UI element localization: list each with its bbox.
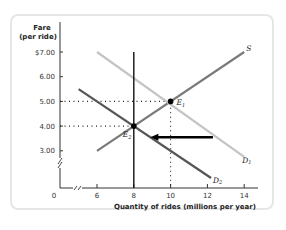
label-e1: E1 bbox=[176, 98, 186, 108]
label-d1: D1 bbox=[241, 156, 251, 166]
y-axis-title-line2: (per ride) bbox=[19, 33, 57, 41]
label-e2: E2 bbox=[122, 130, 132, 140]
x-tick-label: 6 bbox=[95, 192, 100, 200]
shift-arrow bbox=[150, 134, 213, 141]
x-tick-label: 14 bbox=[240, 192, 249, 200]
curve-d2 bbox=[79, 89, 211, 178]
point-e2 bbox=[131, 123, 137, 129]
y-tick-label: 6.00 bbox=[39, 73, 55, 81]
curves bbox=[79, 52, 245, 188]
y-axis-break-icon bbox=[58, 158, 62, 168]
x-axis-break-icon bbox=[74, 186, 81, 190]
point-e1 bbox=[168, 99, 174, 105]
label-s: S bbox=[246, 44, 251, 53]
x-axis-title: Quantity of rides (millions per year) bbox=[114, 203, 256, 211]
y-tick-label: 4.00 bbox=[39, 123, 55, 131]
label-d2: D2 bbox=[212, 176, 222, 186]
market-chart: 3.004.005.006.00$7.00068101214 Fare(per … bbox=[0, 0, 286, 230]
x-tick-label: 10 bbox=[166, 192, 175, 200]
y-tick-label: 3.00 bbox=[39, 147, 55, 155]
axes: 3.004.005.006.00$7.00068101214 bbox=[35, 22, 258, 200]
y-tick-label: $7.00 bbox=[35, 49, 55, 57]
x-tick-label: 12 bbox=[203, 192, 212, 200]
x-tick-label: 0 bbox=[52, 192, 56, 200]
y-axis-title: Fare bbox=[33, 24, 51, 32]
y-tick-label: 5.00 bbox=[39, 98, 55, 106]
x-tick-label: 8 bbox=[132, 192, 136, 200]
